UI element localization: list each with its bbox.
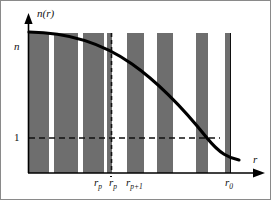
x-axis-arrowhead xyxy=(253,169,265,178)
x-tick-label-r-p-bar: rp xyxy=(109,177,117,188)
bar-group xyxy=(28,33,230,173)
x-tick-sub-r-p: p xyxy=(98,182,102,191)
x-tick-label-r-0: r0 xyxy=(225,177,233,188)
x-tick-label-r-p-plus-1: rp+1 xyxy=(126,177,143,188)
figure-container: n(r) n 1 r rp rp rp+1 r0 xyxy=(0,0,271,200)
y-axis-title: n(r) xyxy=(37,8,54,19)
plot-canvas xyxy=(1,1,271,200)
x-axis-title: r xyxy=(253,154,257,165)
y-axis-arrowhead xyxy=(24,13,32,24)
bar-6 xyxy=(157,33,173,173)
y-tick-label-1: 1 xyxy=(14,132,20,143)
bar-5 xyxy=(127,33,144,173)
bar-1 xyxy=(28,33,49,173)
x-tick-sub-r-p-plus-1: p+1 xyxy=(130,182,143,191)
bar-8 xyxy=(225,33,230,173)
bar-3 xyxy=(83,33,104,173)
y-tick-label-n: n xyxy=(14,41,20,52)
x-tick-sub-r-0: 0 xyxy=(229,182,233,191)
bar-2 xyxy=(54,33,78,173)
bar-7 xyxy=(196,33,208,173)
x-tick-sub-r-p-bar: p xyxy=(113,182,117,191)
x-tick-label-r-p: rp xyxy=(94,177,102,188)
